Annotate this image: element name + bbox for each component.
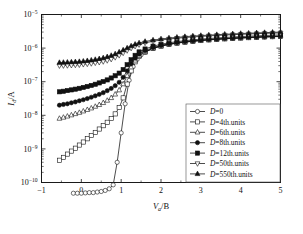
y-tick-exponent: −8 <box>32 110 38 116</box>
y-tick-label: 10−6 <box>24 43 38 53</box>
marker-circle-fill <box>195 141 199 145</box>
marker-square-fill <box>151 44 155 48</box>
marker-square-fill <box>93 82 97 86</box>
legend-label: D=12th.units <box>209 149 249 158</box>
y-tick-label: 10−7 <box>24 76 38 86</box>
marker-circle-fill <box>117 80 121 84</box>
marker-circle-fill <box>57 103 61 107</box>
marker-circle-fill <box>93 94 97 98</box>
y-tick-exponent: −6 <box>32 43 38 49</box>
marker-square-open <box>65 152 69 156</box>
marker-circle-open <box>119 131 123 135</box>
marker-square-open <box>85 137 89 141</box>
marker-circle-fill <box>69 101 73 105</box>
x-tick-label: 4 <box>239 186 243 195</box>
marker-circle-fill <box>113 84 117 88</box>
y-tick-exponent: −7 <box>32 76 38 82</box>
y-tick-label: 10−9 <box>24 144 38 154</box>
marker-square-open <box>121 96 125 100</box>
y-tick-exponent: −5 <box>32 9 38 15</box>
transfer-characteristics-chart: −101234510−1010−910−810−710−610−5 Va/BId… <box>0 0 303 234</box>
legend-label: D=6th.units <box>209 128 245 137</box>
legend-label: D=550th.units <box>209 170 253 179</box>
marker-square-fill <box>133 53 137 57</box>
marker-circle-open <box>91 191 95 195</box>
marker-circle-fill <box>65 102 69 106</box>
marker-square-open <box>97 127 101 131</box>
x-tick-label: −1 <box>37 186 46 195</box>
marker-square-open <box>73 146 77 150</box>
x-tick-label: 1 <box>119 186 123 195</box>
y-tick-base: 10 <box>24 145 32 154</box>
y-axis-title: Id/A <box>6 90 17 106</box>
marker-circle-fill <box>105 89 109 93</box>
legend-label: D=0 <box>209 107 224 116</box>
legend-label: D=50th.units <box>209 159 249 168</box>
marker-square-fill <box>105 78 109 82</box>
chart-legend: D=0D=4th.unitsD=6th.unitsD=8th.unitsD=12… <box>186 104 280 182</box>
marker-square-open <box>89 133 93 137</box>
y-axis-title-tail: /A <box>6 90 16 99</box>
legend-label-rest: =50th.units <box>215 159 249 168</box>
marker-square-fill <box>65 88 69 92</box>
marker-circle-fill <box>97 92 101 96</box>
marker-circle-fill <box>129 62 133 66</box>
marker-square-fill <box>61 89 65 93</box>
x-tick-label: 5 <box>279 186 283 195</box>
marker-square-open <box>77 143 81 147</box>
y-tick-exponent: −10 <box>29 177 38 183</box>
marker-square-fill <box>81 85 85 89</box>
marker-square-open <box>93 130 97 134</box>
marker-square-fill <box>129 58 133 62</box>
y-tick-base: 10 <box>21 178 29 187</box>
marker-square-fill <box>89 83 93 87</box>
legend-label: D=4th.units <box>209 118 245 127</box>
marker-square-fill <box>57 90 61 94</box>
marker-square-fill <box>101 79 105 83</box>
marker-square-fill <box>125 63 129 67</box>
marker-circle-open <box>99 189 103 193</box>
marker-circle-open <box>71 191 75 195</box>
marker-square-fill <box>113 74 117 78</box>
marker-circle-open <box>195 109 199 113</box>
marker-square-open <box>195 120 199 124</box>
marker-square-fill <box>137 50 141 54</box>
marker-square-open <box>129 69 133 73</box>
marker-square-open <box>61 155 65 159</box>
marker-square-fill <box>117 71 121 75</box>
marker-circle-fill <box>89 95 93 99</box>
x-axis-title-tail: /B <box>161 201 169 211</box>
x-tick-label: 2 <box>159 186 163 195</box>
marker-circle-open <box>115 160 119 164</box>
marker-square-open <box>81 140 85 144</box>
legend-label-rest: =6th.units <box>215 128 245 137</box>
marker-square-open <box>105 120 109 124</box>
legend-label-rest: =12th.units <box>215 149 249 158</box>
legend-label-rest: =550th.units <box>215 170 252 179</box>
marker-circle-fill <box>101 91 105 95</box>
y-tick-base: 10 <box>24 10 32 19</box>
marker-square-open <box>57 158 61 162</box>
marker-circle-fill <box>109 86 113 90</box>
marker-circle-open <box>111 183 115 187</box>
marker-square-fill <box>109 76 113 80</box>
legend-label-rest: =0 <box>215 107 223 116</box>
y-tick-label: 10−8 <box>24 110 38 120</box>
y-tick-exponent: −9 <box>32 144 38 150</box>
marker-circle-open <box>103 188 107 192</box>
marker-circle-fill <box>77 99 81 103</box>
y-tick-base: 10 <box>24 44 32 53</box>
marker-circle-fill <box>121 75 125 79</box>
y-tick-label: 10−10 <box>21 177 38 187</box>
marker-square-open <box>101 124 105 128</box>
marker-circle-open <box>87 191 91 195</box>
marker-triangle-open <box>105 98 110 103</box>
marker-circle-open <box>79 191 83 195</box>
marker-square-fill <box>195 151 199 155</box>
marker-square-open <box>109 116 113 120</box>
marker-square-fill <box>97 81 101 85</box>
x-axis-title: Va/B <box>153 201 170 212</box>
marker-circle-open <box>123 102 127 106</box>
marker-square-fill <box>143 47 147 51</box>
marker-square-open <box>117 105 121 109</box>
